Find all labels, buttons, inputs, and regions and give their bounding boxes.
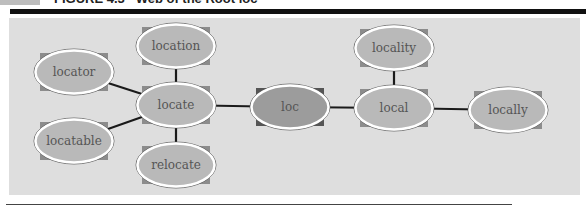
node-locality: locality [354,25,434,71]
node-label: relocate [151,158,201,172]
node-locator: locator [34,49,114,95]
nodes: locationlocatorlocatelocatablerelocatelo… [34,23,548,188]
node-label: loc [281,100,299,114]
node-relocate: relocate [136,142,216,188]
node-locate: locate [136,82,216,128]
node-label: locator [53,65,96,79]
node-label: locality [372,41,416,55]
node-loc: loc [250,84,330,130]
node-label: locally [488,103,528,117]
word-web-diagram: locationlocatorlocatelocatablerelocatelo… [0,0,588,211]
node-location: location [136,23,216,69]
node-local: local [354,85,434,131]
node-label: local [380,101,409,115]
node-label: locate [158,98,195,112]
node-label: location [152,39,201,53]
node-locally: locally [468,87,548,133]
node-label: locatable [46,134,102,148]
node-locatable: locatable [34,118,114,164]
